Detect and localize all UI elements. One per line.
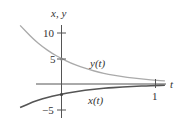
tick-label-1: 1 (152, 90, 158, 102)
y0-point (60, 57, 63, 60)
y-curve (20, 25, 165, 81)
x-curve-label: x(t) (87, 94, 104, 107)
t-axis-label: t (170, 78, 174, 90)
tick-label-10: 10 (43, 27, 55, 39)
tick-label-m5: −5 (42, 104, 54, 116)
chart: x, y 10 5 −5 1 t y(t) x(t) (0, 0, 186, 126)
y-axis-label: x, y (50, 7, 66, 19)
x0-point (60, 93, 63, 96)
tick-label-5: 5 (50, 53, 56, 65)
y-curve-label: y(t) (89, 57, 106, 70)
